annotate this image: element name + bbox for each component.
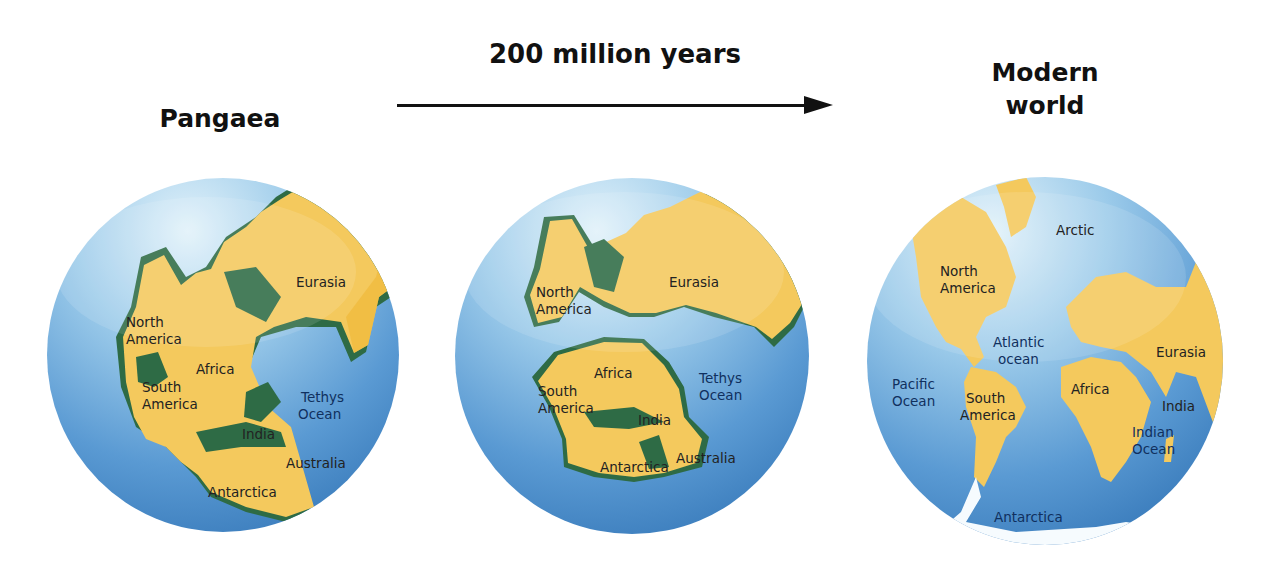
modern-world-title: Modern world	[960, 56, 1130, 122]
label-north-america-1: North	[126, 314, 164, 330]
arrow-head-icon	[804, 96, 833, 114]
label-north-america-1: North	[940, 263, 978, 279]
globe-pangaea: Eurasia North America Africa South Ameri…	[46, 177, 400, 533]
label-australia: Australia	[676, 450, 736, 466]
label-south-america-2: America	[538, 400, 594, 416]
label-africa: Africa	[196, 361, 235, 377]
time-elapsed-title: 200 million years	[420, 38, 810, 71]
label-north-america-1: North	[536, 284, 574, 300]
label-tethys-2: Ocean	[298, 406, 341, 422]
label-tethys-1: Tethys	[300, 389, 344, 405]
label-australia: Australia	[286, 455, 346, 471]
label-eurasia: Eurasia	[1156, 344, 1206, 360]
label-africa: Africa	[1071, 381, 1110, 397]
label-pacific-1: Pacific	[892, 376, 935, 392]
modern-world-title-line2: world	[960, 89, 1130, 122]
label-india: India	[242, 426, 275, 442]
label-indian-1: Indian	[1132, 424, 1174, 440]
pangaea-title: Pangaea	[120, 102, 320, 135]
label-tethys-1: Tethys	[698, 370, 742, 386]
label-eurasia: Eurasia	[296, 274, 346, 290]
label-north-america-2: America	[536, 301, 592, 317]
label-arctic: Arctic	[1056, 222, 1094, 238]
label-eurasia: Eurasia	[669, 274, 719, 290]
label-north-america-2: America	[940, 280, 996, 296]
arrow-shaft	[397, 104, 807, 107]
label-atlantic-2: ocean	[998, 351, 1039, 367]
label-south-america-1: South	[538, 383, 577, 399]
label-indian-2: Ocean	[1132, 441, 1175, 457]
label-antarctica: Antarctica	[208, 484, 277, 500]
label-pacific-2: Ocean	[892, 393, 935, 409]
label-india: India	[638, 412, 671, 428]
label-tethys-2: Ocean	[699, 387, 742, 403]
label-india: India	[1162, 398, 1195, 414]
label-south-america-1: South	[966, 390, 1005, 406]
label-north-america-2: America	[126, 331, 182, 347]
label-atlantic-1: Atlantic	[993, 334, 1044, 350]
globe-breakup: Eurasia North America Africa South Ameri…	[454, 177, 810, 535]
label-antarctica: Antarctica	[994, 509, 1063, 525]
label-south-america-2: America	[960, 407, 1016, 423]
label-africa: Africa	[594, 365, 633, 381]
globe-modern: Arctic North America Atlantic ocean Paci…	[866, 177, 1224, 547]
label-south-america-1: South	[142, 379, 181, 395]
modern-world-title-line1: Modern	[960, 56, 1130, 89]
label-south-america-2: America	[142, 396, 198, 412]
label-antarctica: Antarctica	[600, 459, 669, 475]
